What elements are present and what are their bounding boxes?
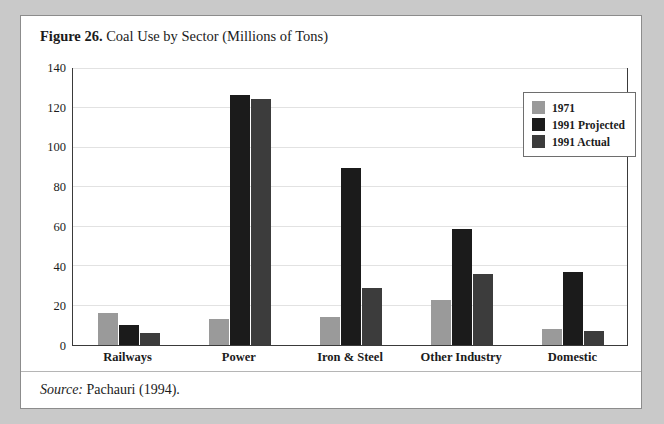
legend-label: 1991 Projected	[552, 119, 625, 131]
figure-caption: Coal Use by Sector (Millions of Tons)	[106, 28, 328, 44]
y-axis-tick-label: 60	[21, 219, 66, 234]
bar	[320, 317, 340, 345]
source-citation: Pachauri (1994).	[87, 382, 180, 397]
bar	[230, 95, 250, 345]
bar-group	[209, 69, 271, 345]
bar	[563, 272, 583, 345]
bar	[98, 313, 118, 345]
chart-legend: 19711991 Projected1991 Actual	[523, 92, 636, 157]
x-axis-tick-label: Iron & Steel	[317, 350, 383, 365]
bar	[119, 325, 139, 345]
bar-group	[431, 69, 493, 345]
bar	[542, 329, 562, 345]
legend-swatch-icon	[532, 118, 545, 131]
bar	[431, 300, 451, 345]
legend-swatch-icon	[532, 101, 545, 114]
legend-label: 1991 Actual	[552, 136, 610, 148]
figure-number: Figure 26.	[40, 28, 103, 44]
legend-item: 1991 Projected	[532, 116, 625, 133]
legend-swatch-icon	[532, 135, 545, 148]
page-title: Figure 26. Coal Use by Sector (Millions …	[40, 28, 328, 45]
y-axis-tick-label: 0	[21, 339, 66, 354]
bar	[362, 288, 382, 345]
x-axis-tick-label: Other Industry	[420, 350, 501, 365]
legend-item: 1991 Actual	[532, 133, 625, 150]
figure-page: Figure 26. Coal Use by Sector (Millions …	[20, 15, 642, 409]
y-axis-tick-label: 80	[21, 180, 66, 195]
x-axis: RailwaysPowerIron & SteelOther IndustryD…	[72, 350, 628, 372]
legend-item: 1971	[532, 99, 625, 116]
source-divider	[21, 371, 641, 372]
x-axis-tick-label: Railways	[103, 350, 152, 365]
y-axis-tick-label: 100	[21, 140, 66, 155]
bar	[452, 229, 472, 345]
y-axis-tick-label: 140	[21, 61, 66, 76]
y-axis: 020406080100120140	[21, 68, 66, 346]
x-axis-tick-label: Domestic	[548, 350, 597, 365]
bar-group	[320, 69, 382, 345]
y-axis-tick-label: 40	[21, 259, 66, 274]
bar	[140, 333, 160, 345]
legend-label: 1971	[552, 102, 575, 114]
bar	[251, 99, 271, 345]
bar	[473, 274, 493, 345]
y-axis-tick-label: 20	[21, 299, 66, 314]
bar-group	[98, 69, 160, 345]
bar	[341, 168, 361, 345]
bar	[584, 331, 604, 345]
source-label: Source:	[40, 382, 83, 397]
y-axis-tick-label: 120	[21, 100, 66, 115]
bar	[209, 319, 229, 345]
x-axis-tick-label: Power	[222, 350, 256, 365]
source-note: Source: Pachauri (1994).	[40, 382, 180, 398]
